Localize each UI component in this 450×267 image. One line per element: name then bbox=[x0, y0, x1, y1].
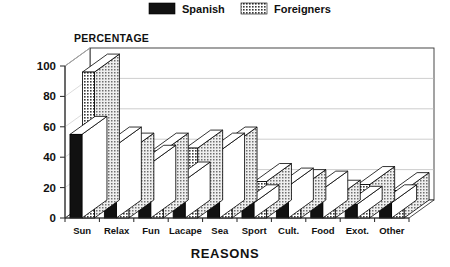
bar-spanish-sun bbox=[70, 116, 107, 218]
x-tick-label-lacape: Lacape bbox=[169, 225, 202, 236]
chart-figure: Spanish Foreigners PERCENTAGE bbox=[0, 0, 450, 267]
legend-swatch-spanish bbox=[149, 3, 175, 14]
y-tick-label-80: 80 bbox=[43, 90, 56, 102]
x-tick-label-cult: Cult. bbox=[278, 225, 299, 236]
legend-label-spanish: Spanish bbox=[182, 3, 225, 15]
legend-item-spanish: Spanish bbox=[149, 3, 225, 15]
legend-label-foreigners: Foreigners bbox=[274, 3, 331, 15]
x-axis-title: REASONS bbox=[191, 246, 260, 261]
legend-item-foreigners: Foreigners bbox=[241, 3, 331, 15]
x-tick-label-fun: Fun bbox=[142, 225, 160, 236]
y-tick-label-60: 60 bbox=[43, 121, 56, 133]
x-tick-label-relax: Relax bbox=[104, 225, 130, 236]
y-tick-label-20: 20 bbox=[43, 182, 56, 194]
x-tick-label-exot: Exot. bbox=[346, 225, 369, 236]
bar-front bbox=[70, 134, 82, 218]
y-tick-label-40: 40 bbox=[43, 151, 56, 163]
x-tick-label-sun: Sun bbox=[73, 225, 91, 236]
y-tick-label-100: 100 bbox=[37, 60, 56, 72]
bar-chart-svg: Spanish Foreigners PERCENTAGE bbox=[0, 0, 450, 267]
x-tick-label-sea: Sea bbox=[211, 225, 229, 236]
y-axis-title: PERCENTAGE bbox=[74, 32, 149, 44]
y-tick-label-0: 0 bbox=[50, 212, 56, 224]
x-tick-label-other: Other bbox=[379, 225, 405, 236]
x-tick-label-sport: Sport bbox=[242, 225, 268, 236]
x-tick-label-food: Food bbox=[311, 225, 334, 236]
legend-swatch-foreigners bbox=[241, 3, 267, 14]
